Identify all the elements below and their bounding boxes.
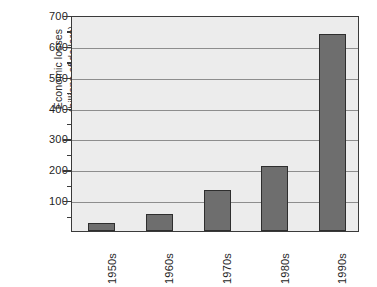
x-axis-tick-label: 1990s [336, 230, 348, 284]
x-axis-tick-label: 1970s [221, 230, 233, 284]
bar [319, 34, 346, 232]
bar [146, 214, 173, 231]
bar [261, 166, 288, 231]
bar-chart-figure: Economic losses (billions of dollars) 10… [0, 0, 377, 287]
bar [204, 190, 231, 231]
x-axis-tick-label: 1960s [163, 230, 175, 284]
x-axis-tick-label: 1980s [279, 230, 291, 284]
bar-series [72, 17, 358, 231]
plot-area [71, 16, 359, 232]
x-axis-tick-label: 1950s [106, 230, 118, 284]
x-axis-tick-labels: 1950s1960s1970s1980s1990s [0, 232, 377, 287]
